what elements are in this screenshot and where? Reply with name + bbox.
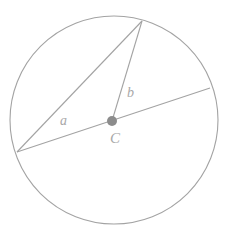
chord-a-line bbox=[17, 21, 142, 152]
center-point-dot bbox=[107, 116, 117, 126]
segment-label-b: b bbox=[127, 86, 134, 100]
center-point-label: C bbox=[110, 131, 120, 146]
geometry-canvas bbox=[0, 0, 227, 234]
geometry-figure: a b C bbox=[0, 0, 227, 234]
segment-label-a: a bbox=[60, 114, 67, 128]
